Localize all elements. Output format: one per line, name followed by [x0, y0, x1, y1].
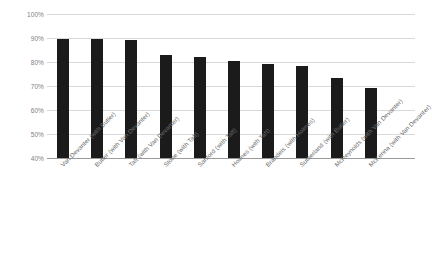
y-axis-ticks: 100%90%80%70%60%50%40% [0, 14, 44, 158]
y-axis-tick-label: 90% [4, 35, 44, 42]
y-axis-tick-label: 100% [4, 11, 44, 18]
bar[interactable] [57, 39, 69, 158]
bar[interactable] [125, 40, 137, 158]
bar[interactable] [296, 66, 308, 158]
y-axis-tick-label: 50% [4, 131, 44, 138]
y-axis-tick-label: 80% [4, 59, 44, 66]
bar[interactable] [194, 57, 206, 158]
bar[interactable] [262, 64, 274, 158]
y-axis-tick-label: 40% [4, 155, 44, 162]
bar[interactable] [331, 78, 343, 158]
y-axis-tick-label: 70% [4, 83, 44, 90]
bar[interactable] [91, 39, 103, 158]
y-axis-tick-label: 60% [4, 107, 44, 114]
bar[interactable] [160, 55, 172, 158]
bar[interactable] [228, 61, 240, 158]
